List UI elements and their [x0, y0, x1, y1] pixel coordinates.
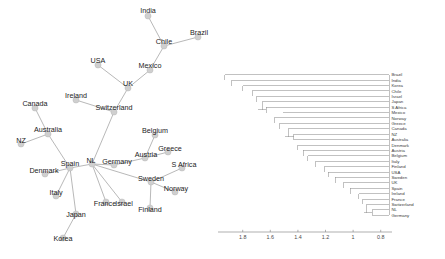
dendrogram-leaf-label: NL: [392, 207, 398, 212]
dendrogram-tick-labels-group: 1.81.61.41.210.8: [239, 234, 385, 240]
dendrogram-leaf-label: Denmark: [392, 143, 410, 148]
dendrogram-branches-group: [225, 75, 389, 216]
figure-root: IndiaBrazilChileMexicoUSAUKIrelandSwitze…: [0, 0, 445, 259]
dendrogram-axis-tick-label: 1.4: [294, 234, 302, 240]
dendrogram-axis-group: [218, 230, 392, 232]
dendrogram-leaf-label: Sweden: [392, 175, 408, 180]
dendrogram-axis-tick-label: 1: [352, 234, 355, 240]
dendrogram-leaf-label: Finland: [392, 164, 407, 169]
dendrogram-leaf-label: Belgium: [392, 153, 408, 158]
dendrogram-leaf-label: France: [392, 197, 406, 202]
dendrogram-leaf-label: USA: [392, 170, 401, 175]
dendrogram-leaf-label: Austria: [392, 148, 406, 153]
dendrogram-axis-tick-label: 1.2: [322, 234, 330, 240]
dendrogram-leaf-label: Korea: [392, 83, 404, 88]
dendrogram-leaf-label: Japan: [392, 99, 404, 104]
dendrogram-axis-tick-label: 1.8: [239, 234, 247, 240]
dendrogram-leaf-label: Israel: [392, 94, 403, 99]
dendrogram-leaf-label: Italy: [392, 159, 401, 164]
dendrogram-axis-tick-label: 0.8: [377, 234, 385, 240]
dendrogram-leaf-labels-group: BrazilIndiaKoreaChileIsraelJapanS Africa…: [392, 72, 415, 218]
dendrogram-leaf-label: NZ: [392, 132, 398, 137]
dendrogram-leaf-label: S Africa: [392, 105, 407, 110]
dendrogram-svg: 1.81.61.41.210.8 BrazilIndiaKoreaChileIs…: [0, 0, 445, 259]
dendrogram-panel: 1.81.61.41.210.8 BrazilIndiaKoreaChileIs…: [0, 0, 445, 259]
dendrogram-leaf-label: Brazil: [392, 72, 403, 77]
dendrogram-leaf-label: Ireland: [392, 191, 406, 196]
dendrogram-leaf-label: Australia: [392, 137, 409, 142]
dendrogram-axis-tick-label: 1.6: [267, 234, 275, 240]
dendrogram-leaf-label: Greece: [392, 121, 407, 126]
dendrogram-leaf-label: Norway: [392, 116, 407, 121]
dendrogram-leaf-label: Canada: [392, 126, 408, 131]
dendrogram-leaf-label: Germany: [392, 213, 411, 218]
dendrogram-leaf-label: Mexico: [392, 110, 406, 115]
dendrogram-leaf-label: India: [392, 78, 402, 83]
dendrogram-leaf-label: Chile: [392, 89, 402, 94]
dendrogram-leaf-label: Switzerland: [392, 202, 415, 207]
dendrogram-leaf-label: Spain: [392, 186, 404, 191]
dendrogram-leaf-label: UK: [392, 180, 398, 185]
